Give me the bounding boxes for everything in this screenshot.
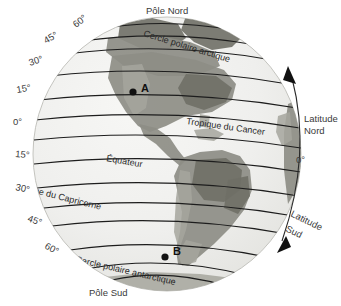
globe-figure: Cercle polaire arctique Tropique du Canc… <box>0 0 341 306</box>
arrow-head-north-icon <box>283 66 296 84</box>
latitude-south-label-line2: Sud <box>284 223 304 240</box>
lat-tick-45s: 45° <box>26 213 43 228</box>
zero-degree-right-label: 0° <box>296 154 305 165</box>
lat-tick-45n: 45° <box>42 29 60 46</box>
lat-tick-30n: 30° <box>27 53 44 68</box>
point-b-dot[interactable] <box>161 253 168 260</box>
lat-tick-60n: 60° <box>70 12 88 30</box>
lat-tick-15n: 15° <box>15 82 31 95</box>
lat-tick-15s: 15° <box>15 148 30 160</box>
latitude-north-label-line1: Latitude <box>304 113 338 124</box>
north-pole-label: Pôle Nord <box>146 5 188 16</box>
latitude-north-label-line2: Nord <box>304 125 325 136</box>
lat-tick-60s: 60° <box>43 240 61 257</box>
south-pole-label: Pôle Sud <box>89 287 128 298</box>
point-a-label: A <box>141 82 149 94</box>
point-b-label: B <box>173 245 181 257</box>
globe-svg: Cercle polaire arctique Tropique du Canc… <box>0 0 341 306</box>
lat-tick-0: 0° <box>13 116 22 127</box>
point-a-dot[interactable] <box>129 88 136 95</box>
lat-tick-30s: 30° <box>15 181 32 195</box>
arrow-head-south-icon <box>277 236 291 253</box>
